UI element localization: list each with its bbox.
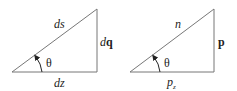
angle-arc-right [154, 57, 160, 72]
triangles-figure [0, 0, 237, 91]
z-subscript: z [173, 83, 176, 91]
vertical-label-dq: dq [100, 36, 113, 48]
angle-arc-left [36, 57, 42, 72]
q-bold: q [106, 35, 113, 49]
angle-label-theta-left: θ [46, 57, 52, 69]
horizontal-label-pz: pz [167, 76, 176, 91]
hypotenuse-label-n: n [175, 18, 181, 30]
vertical-label-p: p [218, 36, 225, 48]
hypotenuse-label-ds: ds [54, 18, 65, 30]
horizontal-label-dz: dz [54, 77, 65, 89]
angle-label-theta-right: θ [164, 57, 170, 69]
triangle-right [130, 9, 214, 72]
